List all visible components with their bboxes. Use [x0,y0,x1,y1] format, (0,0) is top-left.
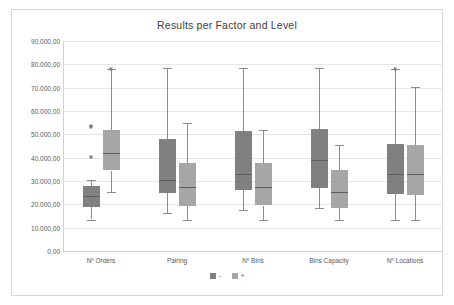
plot-area [63,41,443,251]
box-whisker-cap-lower [335,220,344,221]
box-whisker-cap-lower [239,210,248,211]
box-whisker-cap-lower [87,220,96,221]
gridline [63,251,443,252]
gridline [63,111,443,112]
gridline [63,134,443,135]
box-outlier-marker [90,156,93,159]
box-median-line [331,192,348,193]
box-whisker-cap-upper [315,68,324,69]
x-axis-labels: Nº OrdersPairingNº BinsBins CapacityNº L… [63,257,443,269]
box-plot-box[interactable] [103,130,120,171]
box-outlier-marker [90,124,93,127]
box-median-line [387,174,404,175]
y-axis-tick-label: 80.000,00 [12,61,60,68]
box-plot-box[interactable] [235,131,252,190]
box-whisker-cap-upper [163,68,172,69]
box-whisker-upper [319,68,320,129]
box-plot-box[interactable] [387,144,404,194]
x-axis-tick-label: Pairing [167,257,187,264]
chart-legend: -+ [12,272,442,279]
legend-label: - [219,272,221,279]
legend-entry[interactable]: - [210,272,221,279]
y-axis-labels: 90.000,0080.000,0070.000,0060.000,0050.0… [12,41,60,251]
box-whisker-lower [91,207,92,220]
box-whisker-cap-upper [335,145,344,146]
box-plot-box[interactable] [159,139,176,193]
y-axis-tick-label: 70.000,00 [12,84,60,91]
box-median-line [311,160,328,161]
box-whisker-cap-upper [411,87,420,88]
box-median-line [407,174,424,175]
box-whisker-upper [187,123,188,162]
box-whisker-cap-lower [107,192,116,193]
box-whisker-lower [187,206,188,220]
box-median-line [179,187,196,188]
box-outlier-marker [110,67,113,70]
box-plot-box[interactable] [331,170,348,208]
box-plot-box[interactable] [407,145,424,195]
box-whisker-upper [243,68,244,131]
box-whisker-cap-lower [259,220,268,221]
box-plot-box[interactable] [311,129,328,188]
box-plot-box[interactable] [255,163,272,205]
box-whisker-cap-upper [183,123,192,124]
box-whisker-cap-lower [163,213,172,214]
box-plot-box[interactable] [179,163,196,206]
box-whisker-upper [111,69,112,130]
y-axis-tick-label: 60.000,00 [12,108,60,115]
box-whisker-lower [167,193,168,213]
box-whisker-upper [339,145,340,170]
box-whisker-cap-lower [391,220,400,221]
y-axis-tick-label: 30.000,00 [12,178,60,185]
box-whisker-lower [111,171,112,192]
y-axis-tick-label: 0,00 [12,248,60,255]
y-axis-tick-label: 50.000,00 [12,131,60,138]
box-whisker-upper [263,130,264,163]
legend-swatch-icon [210,273,216,279]
box-whisker-cap-upper [87,180,96,181]
box-whisker-cap-lower [411,220,420,221]
x-axis-tick-label: Nº Bins [242,257,264,264]
y-axis-tick-label: 20.000,00 [12,201,60,208]
box-median-line [255,187,272,188]
box-whisker-lower [415,195,416,220]
y-axis-tick-label: 10.000,00 [12,224,60,231]
y-axis-tick-label: 40.000,00 [12,154,60,161]
box-whisker-lower [243,190,244,210]
chart-container: Results per Factor and Level 90.000,0080… [11,9,443,296]
legend-label: + [241,272,245,279]
box-whisker-lower [263,206,264,220]
box-whisker-cap-lower [315,208,324,209]
gridline [63,204,443,205]
box-whisker-lower [319,188,320,208]
box-median-line [103,153,120,154]
x-axis-tick-label: Bins Capacity [309,257,349,264]
box-whisker-lower [395,194,396,220]
box-whisker-lower [339,208,340,220]
y-axis-tick-label: 90.000,00 [12,38,60,45]
box-median-line [159,180,176,181]
gridline [63,88,443,89]
x-axis-tick-label: Nº Locations [387,257,424,264]
box-median-line [235,174,252,175]
chart-title: Results per Factor and Level [12,19,442,31]
box-whisker-upper [395,69,396,144]
legend-entry[interactable]: + [232,272,245,279]
box-whisker-cap-upper [239,68,248,69]
gridline [63,41,443,42]
gridline [63,228,443,229]
box-whisker-upper [167,68,168,139]
legend-swatch-icon [232,273,238,279]
gridline [63,64,443,65]
box-median-line [83,196,100,197]
box-whisker-upper [415,87,416,145]
x-axis-tick-label: Nº Orders [87,257,116,264]
box-whisker-cap-lower [183,220,192,221]
box-outlier-marker [394,67,397,70]
box-whisker-cap-upper [259,130,268,131]
